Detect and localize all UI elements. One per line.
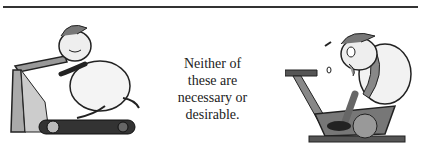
top-horizontal-rule bbox=[3, 6, 418, 8]
treadmill-cartoon bbox=[5, 14, 140, 139]
caption-line: desirable. bbox=[160, 106, 265, 123]
caption-text: Neither of these are necessary or desira… bbox=[160, 55, 265, 123]
caption-line: these are bbox=[160, 72, 265, 89]
caption-line: necessary or bbox=[160, 89, 265, 106]
exercise-bike-man-icon bbox=[285, 14, 417, 144]
exercise-bike-cartoon bbox=[285, 14, 417, 144]
caption-line: Neither of bbox=[160, 55, 265, 72]
treadmill-man-icon bbox=[5, 14, 140, 139]
